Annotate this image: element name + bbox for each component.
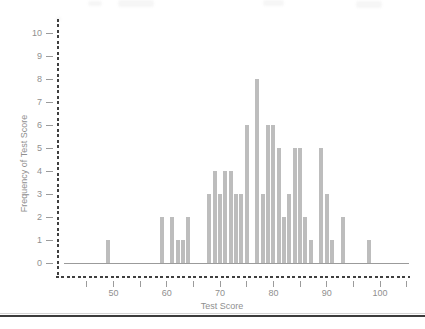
histogram-bar [207, 194, 211, 263]
histogram-bar [160, 217, 164, 263]
y-tick-label: 9 [22, 51, 42, 61]
histogram-bar [239, 194, 243, 263]
x-axis-dashed-line [56, 276, 410, 278]
y-tick-label: 10 [22, 28, 42, 38]
x-tick [220, 281, 221, 287]
histogram-bar [367, 240, 371, 263]
y-tick [46, 217, 53, 218]
y-tick-label: 2 [22, 212, 42, 222]
x-tick-label: 50 [103, 288, 125, 298]
y-tick-label: 6 [22, 120, 42, 130]
y-tick [46, 79, 53, 80]
y-tick-label: 7 [22, 97, 42, 107]
x-tick [406, 281, 407, 287]
histogram-bar [303, 217, 307, 263]
histogram-bar [255, 79, 259, 263]
x-axis-title: Test Score [122, 301, 322, 311]
x-tick-label: 60 [156, 288, 178, 298]
page-edge-text-artifact [263, 0, 284, 6]
y-tick [46, 194, 53, 195]
histogram-bar [245, 125, 249, 263]
histogram-bar [266, 125, 270, 263]
histogram-bar [330, 240, 334, 263]
x-tick [86, 281, 87, 287]
y-tick [46, 33, 53, 34]
x-tick [166, 281, 167, 287]
page-edge-text-artifact [88, 1, 102, 6]
y-tick-label: 3 [22, 189, 42, 199]
y-tick [46, 102, 53, 103]
y-tick-label: 1 [22, 235, 42, 245]
x-axis-zero-baseline [64, 263, 409, 264]
y-axis-dashed-line [57, 19, 59, 278]
histogram-bar [218, 194, 222, 263]
histogram-bar [325, 194, 329, 263]
x-tick [246, 281, 247, 287]
x-tick [193, 281, 194, 287]
x-tick [326, 281, 327, 287]
page-divider-rule [0, 315, 425, 317]
histogram-bar [170, 217, 174, 263]
page-edge-text-artifact [118, 0, 154, 7]
y-tick [46, 125, 53, 126]
x-tick [140, 281, 141, 287]
page-edge-text-artifact [356, 1, 382, 8]
histogram-bar [287, 194, 291, 263]
y-tick [46, 171, 53, 172]
x-tick-label: 80 [262, 288, 284, 298]
histogram-bar [298, 148, 302, 263]
histogram-bar [186, 217, 190, 263]
y-tick [46, 148, 53, 149]
histogram-bar [213, 171, 217, 263]
histogram-bar [181, 240, 185, 263]
x-tick-label: 90 [316, 288, 338, 298]
x-tick [273, 281, 274, 287]
histogram-bar [309, 240, 313, 263]
y-tick-label: 5 [22, 143, 42, 153]
y-tick [46, 263, 53, 264]
histogram-bar [277, 148, 281, 263]
histogram-bar [223, 171, 227, 263]
x-tick [300, 281, 301, 287]
y-tick-label: 8 [22, 74, 42, 84]
histogram-bar [229, 171, 233, 263]
x-tick-label: 70 [209, 288, 231, 298]
y-tick-label: 4 [22, 166, 42, 176]
x-tick [353, 281, 354, 287]
histogram-bar [341, 217, 345, 263]
histogram-bar [234, 194, 238, 263]
y-tick [46, 56, 53, 57]
x-tick [380, 281, 381, 287]
x-tick [113, 281, 114, 287]
textbook-histogram-figure: Frequency of Test Score Test Score 01234… [0, 0, 425, 329]
histogram-bar [319, 148, 323, 263]
page-divider-rule-light [0, 313, 425, 314]
y-tick-label: 0 [22, 258, 42, 268]
histogram-bar [271, 125, 275, 263]
histogram-bar [261, 194, 265, 263]
x-tick-label: 100 [369, 288, 391, 298]
histogram-bar [293, 148, 297, 263]
histogram-bar [282, 217, 286, 263]
histogram-bar [106, 240, 110, 263]
histogram-bar [176, 240, 180, 263]
y-tick [46, 240, 53, 241]
